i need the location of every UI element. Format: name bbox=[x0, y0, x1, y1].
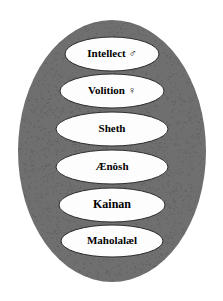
node-volition[interactable]: Volition ♀ bbox=[60, 74, 164, 108]
node-label-volition: Volition ♀ bbox=[88, 84, 136, 96]
node-label-kainan: Kainan bbox=[93, 197, 131, 211]
node-kainan[interactable]: Kainan bbox=[59, 188, 165, 222]
node-sheth[interactable]: Sheth bbox=[56, 112, 168, 146]
node-maholalael[interactable]: Maholalæl bbox=[61, 225, 163, 257]
node-label-sheth: Sheth bbox=[99, 122, 126, 134]
node-label-aenosh: Ænôsh bbox=[95, 160, 128, 172]
nested-oval-diagram: Intellect ♂Volition ♀ShethÆnôshKainanMah… bbox=[0, 0, 223, 301]
node-label-maholalael: Maholalæl bbox=[87, 234, 137, 246]
node-label-intellect: Intellect ♂ bbox=[87, 47, 136, 59]
diagram-canvas: Intellect ♂Volition ♀ShethÆnôshKainanMah… bbox=[0, 0, 223, 301]
node-intellect[interactable]: Intellect ♂ bbox=[65, 37, 159, 71]
node-aenosh[interactable]: Ænôsh bbox=[56, 150, 168, 184]
